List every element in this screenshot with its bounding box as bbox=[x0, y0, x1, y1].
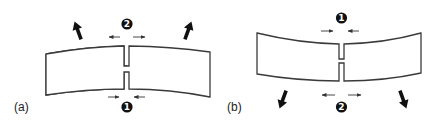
panel-a: 2 1 (a) bbox=[14, 18, 210, 114]
bending-diagram: 2 1 (a) 1 bbox=[0, 0, 440, 125]
svg-text:1: 1 bbox=[338, 13, 344, 23]
beam-outline-b bbox=[257, 33, 421, 81]
beam-outline-a bbox=[46, 46, 210, 97]
panel-label-a: (a) bbox=[14, 100, 29, 114]
marker-1-bottom-a: 1 bbox=[121, 101, 132, 112]
svg-text:2: 2 bbox=[124, 19, 130, 29]
force-arrow-left-a bbox=[70, 20, 86, 41]
panel-label-b: (b) bbox=[227, 100, 242, 114]
marker-2-bottom-b: 2 bbox=[336, 101, 347, 112]
panel-b: 1 2 (b) bbox=[227, 12, 421, 114]
marker-1-top-b: 1 bbox=[336, 12, 347, 23]
force-arrow-right-b bbox=[395, 89, 411, 110]
force-arrow-left-b bbox=[275, 89, 291, 110]
svg-text:2: 2 bbox=[338, 102, 344, 112]
force-arrow-right-a bbox=[180, 20, 196, 41]
svg-text:1: 1 bbox=[124, 102, 130, 112]
marker-2-top-a: 2 bbox=[121, 18, 132, 29]
